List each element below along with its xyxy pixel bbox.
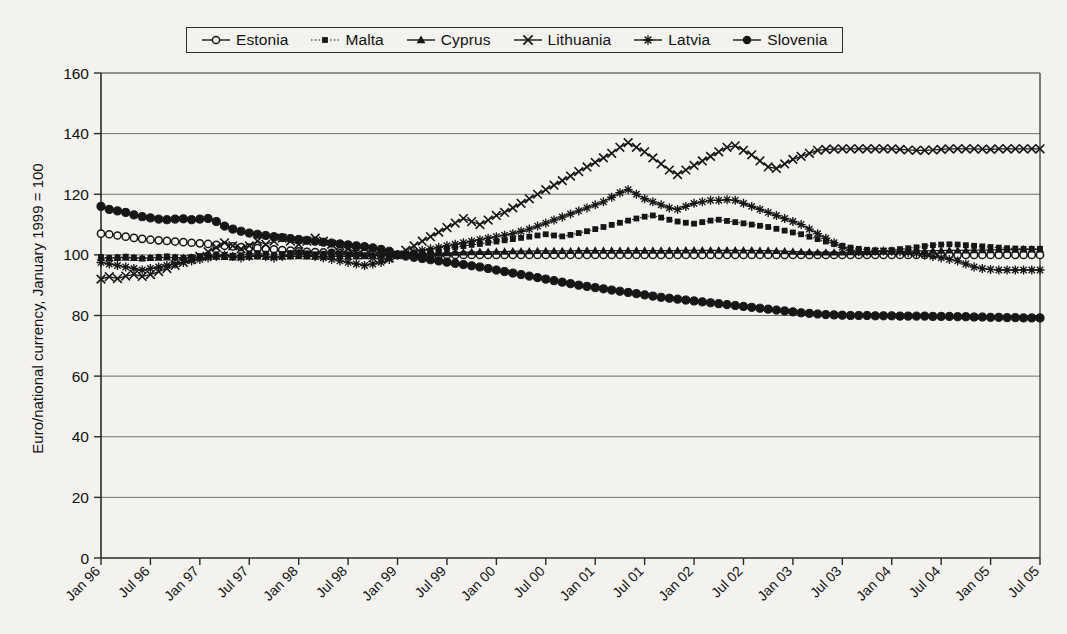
data-point <box>476 220 485 229</box>
data-point <box>607 193 616 202</box>
data-point <box>459 260 467 268</box>
data-point <box>130 211 138 219</box>
data-point <box>508 229 517 238</box>
data-point <box>607 149 616 158</box>
data-point <box>846 246 855 255</box>
series-slovenia <box>97 202 1044 322</box>
data-point <box>813 229 822 238</box>
data-point <box>533 274 541 282</box>
data-point <box>978 313 986 321</box>
data-point <box>953 256 962 265</box>
y-axis-tick-label: 120 <box>63 186 89 203</box>
exchange-rate-index-chart: EstoniaMaltaCyprusLithuaniaLatviaSloveni… <box>0 0 1067 634</box>
data-point <box>601 224 607 230</box>
x-axis-tick-label: Jul 02 <box>708 563 746 601</box>
data-point <box>665 166 674 175</box>
data-point <box>105 205 113 213</box>
data-point <box>336 240 344 248</box>
data-point <box>262 231 270 239</box>
data-point <box>426 244 435 253</box>
data-point <box>212 217 220 225</box>
data-point <box>146 214 154 222</box>
data-point <box>550 181 559 190</box>
data-point <box>550 277 558 285</box>
data-point <box>665 294 673 302</box>
data-point <box>352 259 361 268</box>
data-point <box>986 313 994 321</box>
data-point <box>747 151 756 160</box>
data-point <box>599 197 608 206</box>
data-point <box>228 252 237 261</box>
data-point <box>681 202 690 211</box>
data-point <box>624 288 632 296</box>
data-point <box>171 259 180 268</box>
data-point <box>319 253 328 262</box>
data-point <box>739 302 747 310</box>
data-point <box>574 206 583 215</box>
data-point <box>393 251 401 259</box>
data-point <box>624 138 633 147</box>
x-axis-tick-label: Jul 03 <box>807 563 845 601</box>
data-point <box>617 220 623 226</box>
x-axis-tick-label: Jan 01 <box>556 563 597 604</box>
data-point <box>805 149 814 158</box>
data-point <box>443 223 452 232</box>
x-axis-tick-label: Jul 97 <box>214 563 252 601</box>
data-point <box>780 160 789 169</box>
data-point <box>443 258 451 266</box>
data-point <box>608 286 616 294</box>
data-point <box>708 218 714 224</box>
data-point <box>385 247 393 255</box>
data-point <box>468 262 476 270</box>
data-point <box>928 252 937 261</box>
data-point <box>278 252 287 261</box>
data-point <box>559 233 565 239</box>
data-point <box>575 281 583 289</box>
data-point <box>732 219 738 225</box>
plot-svg: 020406080100120140160Jan 96Jul 96Jan 97J… <box>0 0 1067 634</box>
data-point <box>781 307 789 315</box>
data-point <box>591 158 600 167</box>
data-point <box>196 215 204 223</box>
data-point <box>541 219 550 228</box>
data-point <box>286 234 294 242</box>
data-point <box>995 313 1003 321</box>
data-point <box>525 194 534 203</box>
data-point <box>418 246 427 255</box>
data-point <box>344 258 353 267</box>
data-point <box>574 167 583 176</box>
data-point <box>624 185 633 194</box>
data-point <box>138 213 146 221</box>
data-point <box>583 282 591 290</box>
data-point <box>673 170 682 179</box>
data-point <box>418 237 427 246</box>
data-point <box>780 214 789 223</box>
data-point <box>377 258 386 267</box>
data-point <box>640 148 649 157</box>
data-point <box>921 312 929 320</box>
data-point <box>187 256 196 265</box>
data-point <box>970 263 979 272</box>
data-point <box>526 234 532 240</box>
data-point <box>122 233 129 240</box>
data-point <box>525 225 534 234</box>
data-point <box>1003 314 1011 322</box>
data-point <box>475 235 484 244</box>
data-point <box>690 297 698 305</box>
data-point <box>1027 266 1036 275</box>
data-point <box>484 264 492 272</box>
data-point <box>451 259 459 267</box>
data-point <box>113 207 121 215</box>
data-point <box>566 172 575 181</box>
data-point <box>666 217 672 223</box>
data-point <box>616 287 624 295</box>
data-point <box>747 202 756 211</box>
data-point <box>657 293 665 301</box>
data-point <box>797 220 806 229</box>
data-point <box>1003 266 1012 275</box>
data-point <box>741 220 747 226</box>
data-point <box>442 241 451 250</box>
data-point <box>682 166 691 175</box>
data-point <box>706 196 715 205</box>
x-axis-tick-label: Jul 98 <box>312 563 350 601</box>
